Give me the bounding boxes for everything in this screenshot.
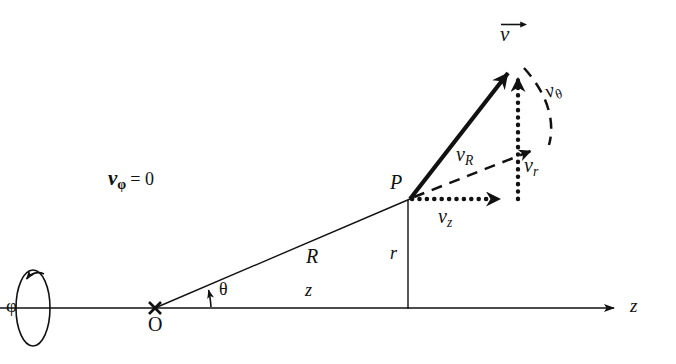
v-R-symbol: ν: [456, 143, 465, 165]
velocity-decomposition-diagram: φ O θ R r z z P v νφ= 0 νR νr νz νθ: [0, 0, 676, 364]
v-R-subscript: R: [465, 153, 473, 168]
velocity-vector-label: v: [500, 24, 509, 45]
theta-angle-label: θ: [219, 280, 228, 298]
radius-R-line: [155, 199, 410, 308]
origin-label: O: [148, 314, 162, 334]
point-p-label: P: [390, 172, 402, 192]
radius-R-label: R: [306, 246, 318, 266]
axial-distance-z-label: z: [305, 281, 312, 299]
v-r-subscript: r: [533, 164, 538, 179]
phi-rotation-label: φ: [6, 296, 17, 315]
v-phi-subscript: φ: [117, 176, 126, 192]
radius-r-label: r: [390, 244, 397, 262]
v-z-symbol: ν: [438, 205, 447, 227]
diagram-canvas: [0, 0, 676, 364]
v-phi-symbol: ν: [108, 166, 117, 190]
v-r-symbol: ν: [524, 154, 533, 176]
v-phi-zero-label: νφ= 0: [108, 168, 154, 192]
v-z-label: νz: [438, 206, 452, 230]
theta-angle-arc: [209, 290, 211, 307]
v-R-label: νR: [456, 144, 473, 168]
v-z-subscript: z: [447, 215, 452, 230]
v-phi-equals-zero: = 0: [130, 169, 154, 189]
v-r-label: νr: [524, 155, 538, 179]
z-axis-label: z: [630, 296, 637, 315]
vector-overbar-icon: [501, 21, 527, 28]
